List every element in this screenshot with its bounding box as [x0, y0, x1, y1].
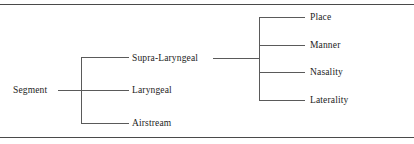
- node-place: Place: [310, 12, 331, 23]
- figure-top-rule: [0, 4, 414, 5]
- node-nasality: Nasality: [310, 67, 343, 78]
- node-laterality: Laterality: [310, 95, 348, 106]
- edge-supra-laryngeal-spine: [259, 17, 260, 101]
- edge-to-place: [259, 17, 305, 18]
- figure-bottom-rule: [0, 137, 414, 138]
- edge-to-manner: [259, 45, 305, 46]
- tree-diagram-figure: Segment Supra-Laryngeal Laryngeal Airstr…: [0, 0, 414, 144]
- node-root-segment: Segment: [13, 85, 47, 96]
- node-manner: Manner: [310, 40, 340, 51]
- node-supra-laryngeal: Supra-Laryngeal: [132, 53, 198, 64]
- edge-to-airstream: [81, 123, 129, 124]
- edge-supra-laryngeal-stem: [213, 58, 260, 59]
- edge-to-laterality: [259, 100, 305, 101]
- node-airstream: Airstream: [132, 118, 171, 129]
- edge-to-laryngeal: [81, 90, 129, 91]
- node-laryngeal: Laryngeal: [132, 85, 172, 96]
- edge-root-stem: [58, 90, 81, 91]
- edge-to-supra-laryngeal: [81, 57, 129, 58]
- edge-to-nasality: [259, 72, 305, 73]
